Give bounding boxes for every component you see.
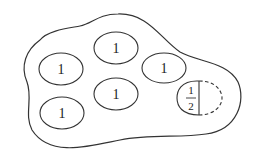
unit-region-3: 1	[142, 53, 186, 83]
unit-region-5: 1	[40, 97, 84, 129]
diagram-canvas: 1 1 1 1 1 1 2	[0, 0, 253, 162]
half-region: 1 2	[177, 81, 222, 115]
region-label: 1	[113, 41, 120, 56]
outer-region-boundary	[24, 14, 241, 148]
fraction-denominator: 2	[188, 100, 194, 112]
fraction-numerator: 1	[188, 84, 194, 96]
region-label: 1	[161, 61, 168, 76]
region-label: 1	[113, 87, 120, 102]
unit-region-1: 1	[39, 53, 83, 85]
region-label: 1	[59, 106, 66, 121]
unit-region-4: 1	[94, 78, 138, 110]
region-label: 1	[58, 62, 65, 77]
half-region-dashed-arc	[199, 81, 222, 115]
unit-region-2: 1	[94, 32, 138, 64]
